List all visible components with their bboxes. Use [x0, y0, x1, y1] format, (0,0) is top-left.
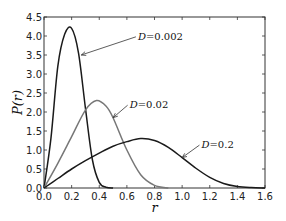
annotation-arrow-1	[81, 37, 136, 55]
y-tick-label: 2.0	[26, 107, 42, 118]
x-tick-label: 0.2	[64, 191, 80, 202]
x-tick-label: 1.6	[257, 191, 273, 202]
annotation-label-3: D=0.2	[200, 139, 233, 150]
chart: 0.00.20.40.60.81.01.21.41.60.00.51.01.52…	[0, 0, 286, 221]
annotation-arrow-2	[113, 105, 128, 118]
x-tick-label: 1.2	[202, 191, 218, 202]
x-axis-label: r	[151, 200, 158, 215]
y-tick-label: 0.5	[26, 164, 42, 175]
x-tick-label: 1.0	[174, 191, 190, 202]
y-axis-label: P(r)	[10, 90, 25, 116]
y-tick-label: 2.5	[26, 88, 42, 99]
y-tick-label: 1.5	[26, 126, 42, 137]
y-tick-label: 4.0	[26, 31, 42, 42]
x-tick-label: 0.6	[119, 191, 135, 202]
y-tick-label: 0.0	[26, 183, 42, 194]
y-tick-label: 3.0	[26, 69, 42, 80]
annotation-arrow-3	[182, 145, 199, 158]
x-tick-label: 0.4	[91, 191, 107, 202]
y-tick-label: 3.5	[26, 50, 42, 61]
y-tick-label: 4.5	[26, 12, 42, 23]
x-tick-label: 1.4	[229, 191, 245, 202]
annotation-label-1: D=0.002	[137, 31, 183, 42]
y-tick-label: 1.0	[26, 145, 42, 156]
annotation-label-2: D=0.02	[129, 99, 169, 110]
